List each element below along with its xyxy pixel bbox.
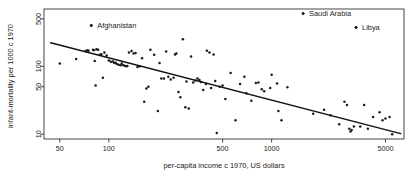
annotated-data-point [302, 12, 305, 15]
data-point [192, 81, 195, 84]
y-axis-title: infant-mortality per 1000 c 1970 [6, 24, 15, 128]
data-point [277, 110, 280, 113]
data-point [182, 38, 185, 41]
regression-line [51, 43, 401, 134]
data-point [286, 86, 289, 89]
scatter-plot-figure: 5010050010005000 1050100500 AfghanistanS… [0, 0, 419, 176]
data-point [202, 89, 205, 92]
data-point [323, 108, 326, 111]
data-point [391, 133, 394, 136]
data-point [102, 76, 105, 79]
point-annotations: AfghanistanSaudi ArabiaLibya [90, 9, 381, 32]
data-point [378, 111, 381, 114]
x-axis-ticks: 5010050010005000 [56, 139, 394, 153]
data-point [210, 87, 213, 90]
data-point [185, 80, 188, 83]
annotation-label: Afghanistan [97, 21, 136, 30]
data-point [126, 65, 129, 68]
x-tick-label: 100 [103, 144, 115, 153]
y-tick-label: 50 [34, 83, 43, 91]
data-point [343, 101, 346, 104]
data-point [130, 50, 133, 53]
data-point [239, 83, 242, 86]
x-tick-label: 5000 [377, 144, 393, 153]
data-point [257, 81, 260, 84]
data-point [108, 59, 111, 62]
y-tick-label: 500 [34, 13, 43, 25]
data-point [87, 49, 90, 52]
data-point [172, 76, 175, 79]
data-point [276, 82, 279, 85]
y-tick-label: 10 [34, 130, 43, 138]
data-point [158, 62, 161, 64]
data-point [270, 74, 273, 77]
data-point [157, 110, 160, 113]
data-points [59, 12, 394, 135]
data-point [224, 98, 227, 101]
data-point [93, 49, 96, 52]
data-point [128, 51, 131, 54]
data-point [212, 53, 215, 56]
data-point [263, 90, 266, 93]
data-point [163, 77, 166, 80]
data-point [243, 76, 246, 79]
annotated-data-point [355, 26, 358, 29]
data-point [94, 60, 97, 63]
data-point [384, 117, 387, 120]
data-point [141, 57, 144, 60]
data-point [359, 125, 362, 128]
data-point [214, 80, 217, 83]
data-point [147, 86, 150, 89]
data-point [250, 100, 253, 103]
data-point [388, 116, 391, 119]
data-point [75, 58, 78, 61]
x-axis-title: per-capita income c 1970, US dollars [163, 161, 284, 170]
annotation-label: Saudi Arabia [309, 9, 352, 18]
data-point [149, 49, 152, 52]
data-point [160, 77, 163, 80]
y-axis-ticks: 1050100500 [34, 13, 44, 138]
data-point [175, 52, 178, 55]
data-point [105, 54, 108, 57]
data-point [94, 84, 97, 87]
data-point [177, 91, 180, 94]
data-point [381, 119, 384, 122]
data-point [59, 62, 62, 65]
data-point [190, 55, 193, 58]
trend-line [51, 43, 401, 134]
data-point [367, 128, 370, 131]
data-point [153, 54, 156, 57]
data-point [348, 128, 351, 131]
data-point [145, 87, 148, 90]
data-point [229, 72, 232, 75]
data-point [215, 132, 218, 135]
x-tick-label: 50 [56, 144, 64, 153]
data-point [353, 125, 356, 128]
annotated-data-point [90, 24, 93, 27]
data-point [261, 88, 264, 91]
data-point [206, 49, 209, 52]
data-point [312, 113, 315, 116]
y-tick-label: 100 [34, 60, 43, 72]
data-point [134, 52, 137, 55]
data-point [97, 48, 100, 51]
data-point [143, 101, 146, 104]
data-point [103, 51, 106, 54]
data-point [169, 78, 172, 81]
data-point [372, 116, 375, 119]
x-tick-label: 1000 [264, 144, 280, 153]
data-point [350, 129, 353, 132]
data-point [208, 51, 211, 54]
data-point [188, 107, 191, 110]
data-point [269, 87, 272, 90]
data-point [346, 104, 349, 107]
data-point [363, 104, 366, 107]
data-point [184, 106, 187, 109]
data-point [280, 119, 283, 122]
annotation-label: Libya [362, 23, 381, 32]
data-point [234, 119, 237, 122]
data-point [165, 50, 168, 53]
chart-canvas: 5010050010005000 1050100500 AfghanistanS… [0, 0, 419, 176]
data-point [255, 82, 258, 85]
data-point [338, 123, 341, 126]
